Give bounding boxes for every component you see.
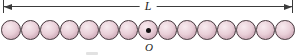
sphere: [158, 20, 178, 40]
sphere: [177, 20, 197, 40]
sphere-chain-figure: L O: [0, 0, 296, 55]
sphere: [217, 20, 237, 40]
sphere: [1, 20, 21, 40]
sphere: [119, 20, 139, 40]
sphere: [60, 20, 80, 40]
sphere: [21, 20, 41, 40]
sphere: [99, 20, 119, 40]
right-arrowhead-icon: [284, 4, 292, 10]
sphere: [40, 20, 60, 40]
sphere: [256, 20, 276, 40]
sphere: [197, 20, 217, 40]
sphere: [79, 20, 99, 40]
origin-label: O: [141, 41, 157, 54]
center-point-dot: [146, 28, 151, 33]
left-arrowhead-icon: [4, 4, 12, 10]
cropped-caption-fragment: [86, 52, 98, 55]
length-label: L: [140, 0, 157, 13]
sphere: [236, 20, 256, 40]
sphere: [275, 20, 295, 40]
right-extent-tick: [292, 0, 293, 13]
